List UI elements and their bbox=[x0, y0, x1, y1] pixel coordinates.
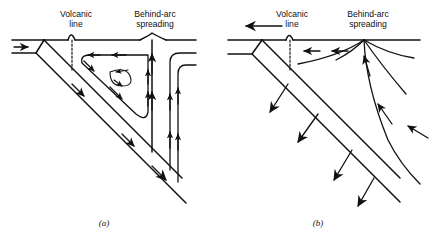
panel-b-behind-arc-label-1: Behind-arc bbox=[347, 9, 389, 19]
panel-b-volcanic-line-label-1: Volcanic bbox=[276, 9, 309, 19]
panel-a-behind-arc-label-2: spreading bbox=[136, 19, 174, 29]
panel-b-volcanic-line-label-2: line bbox=[285, 19, 299, 29]
panel-b-behind-arc-label-2: spreading bbox=[349, 19, 387, 29]
panel-a-volcanic-line-label-2: line bbox=[69, 19, 83, 29]
panel-a-volcanic-line-label-1: Volcanic bbox=[60, 9, 93, 19]
canvas-background bbox=[0, 0, 432, 240]
figure-container: Volcanic line Behind-arc spreading bbox=[0, 0, 432, 240]
panel-b-label: (b) bbox=[313, 218, 324, 228]
panel-a-label: (a) bbox=[99, 218, 110, 228]
diagram-svg: Volcanic line Behind-arc spreading bbox=[0, 0, 432, 240]
panel-a-behind-arc-label-1: Behind-arc bbox=[134, 9, 176, 19]
